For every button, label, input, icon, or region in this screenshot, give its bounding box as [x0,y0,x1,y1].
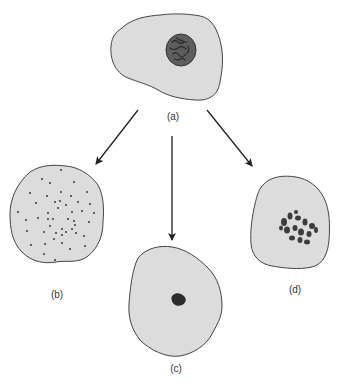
label-a: (a) [167,111,179,122]
cell-d-membrane [251,176,330,268]
diagram-canvas [0,0,343,383]
cell-d [251,176,330,268]
arrow-a-to-d [207,110,252,166]
label-b: (b) [51,289,63,300]
arrows [96,110,252,240]
cell-b-membrane [10,165,103,262]
nucleus [166,34,196,66]
cell-b [10,165,103,262]
label-c: (c) [170,363,182,374]
cell-a [111,14,223,100]
arrow-a-to-b [96,110,138,164]
cell-a-membrane [111,14,223,100]
cell-c [129,246,222,356]
label-d: (d) [289,284,301,295]
